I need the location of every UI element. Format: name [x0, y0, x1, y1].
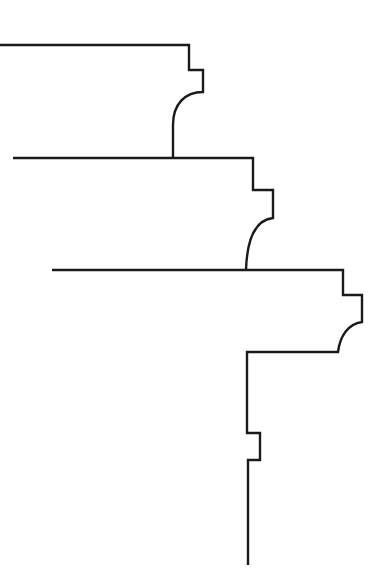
middle-cornice-profile: [13, 158, 273, 270]
molding-profile-drawing: [0, 0, 388, 571]
lower-cornice-profile: [52, 270, 362, 565]
upper-cornice-profile: [0, 45, 203, 158]
